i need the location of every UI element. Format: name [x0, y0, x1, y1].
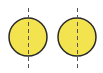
right-circle-group [58, 8, 96, 69]
symmetry-diagram [0, 0, 103, 73]
left-circle-group [9, 8, 47, 69]
